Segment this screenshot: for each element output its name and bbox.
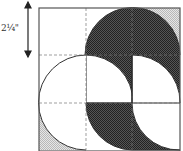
dark-bottom-crescent	[86, 103, 180, 150]
quilt-block-diagram	[0, 0, 183, 151]
dimension-arrow-icon	[25, 2, 31, 57]
dimension-label: 2¼"	[1, 23, 19, 33]
